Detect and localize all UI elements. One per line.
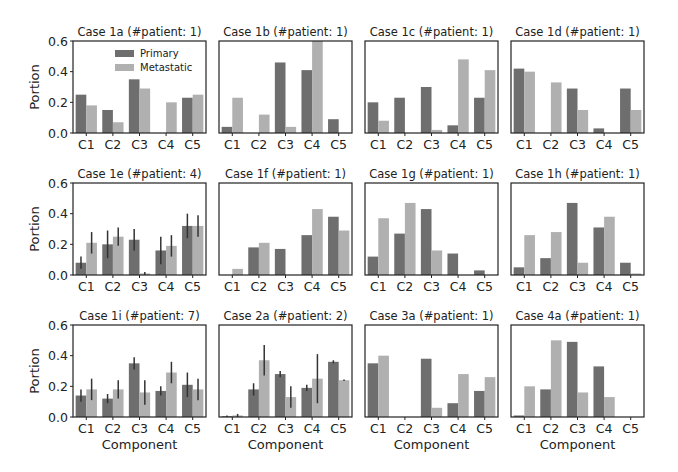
primary-bar xyxy=(76,95,87,133)
metastatic-bar xyxy=(259,243,270,275)
x-tick-label: C1 xyxy=(516,279,533,294)
primary-bar xyxy=(593,366,604,417)
x-tick-label: C1 xyxy=(370,421,387,436)
primary-bar xyxy=(474,391,485,417)
metastatic-bar xyxy=(524,72,535,133)
x-tick-label: C2 xyxy=(105,137,122,152)
x-tick-label: C5 xyxy=(476,279,493,294)
x-tick-label: C2 xyxy=(105,421,122,436)
x-tick-label: C2 xyxy=(251,137,268,152)
primary-bar xyxy=(567,203,578,275)
primary-bar xyxy=(394,98,405,133)
subplot-1g: Case 1g (#patient: 1)C1C2C3C4C5 xyxy=(365,167,498,294)
legend-swatch xyxy=(115,50,134,57)
metastatic-bar xyxy=(458,374,469,417)
metastatic-bar xyxy=(458,59,469,133)
x-tick-label: C2 xyxy=(397,137,414,152)
metastatic-bar xyxy=(405,203,416,275)
metastatic-bar xyxy=(193,95,204,133)
x-tick-label: C2 xyxy=(397,421,414,436)
primary-bar xyxy=(421,87,432,133)
x-tick-label: C4 xyxy=(158,137,175,152)
y-axis-label: Portion xyxy=(27,64,42,110)
x-tick-label: C5 xyxy=(184,279,201,294)
metastatic-bar xyxy=(578,392,589,417)
metastatic-bar xyxy=(232,269,243,275)
primary-bar xyxy=(275,249,286,275)
primary-bar xyxy=(328,362,339,417)
metastatic-bar xyxy=(551,82,562,133)
metastatic-bar xyxy=(312,209,323,275)
x-tick-label: C3 xyxy=(131,137,148,152)
primary-bar xyxy=(328,217,339,275)
subplot-title: Case 2a (#patient: 2) xyxy=(223,309,347,323)
x-tick-label: C4 xyxy=(304,137,321,152)
primary-bar xyxy=(447,403,458,417)
x-tick-label: C5 xyxy=(184,421,201,436)
primary-bar xyxy=(248,247,259,275)
primary-bar xyxy=(514,267,525,275)
x-tick-label: C3 xyxy=(569,279,586,294)
x-tick-label: C4 xyxy=(304,279,321,294)
metastatic-bar xyxy=(378,356,389,417)
primary-bar xyxy=(222,127,233,133)
metastatic-bar xyxy=(578,263,589,275)
x-tick-label: C1 xyxy=(516,137,533,152)
subplot-2a: Case 2a (#patient: 2)C1C2C3C4C5Component xyxy=(219,309,352,452)
subplot-title: Case 1g (#patient: 1) xyxy=(369,167,493,181)
primary-bar xyxy=(301,388,312,417)
legend-label: Primary xyxy=(140,48,179,59)
y-tick-label: 0.2 xyxy=(48,95,68,110)
figure: Case 1a (#patient: 1)C1C2C3C4C50.00.20.4… xyxy=(0,0,678,472)
y-axis-label: Portion xyxy=(27,206,42,252)
metastatic-bar xyxy=(113,122,124,133)
y-tick-label: 0.2 xyxy=(48,237,68,252)
x-tick-label: C1 xyxy=(78,421,95,436)
y-tick-label: 0.6 xyxy=(48,176,68,191)
metastatic-bar xyxy=(232,98,243,133)
x-tick-label: C5 xyxy=(330,137,347,152)
x-tick-label: C2 xyxy=(543,279,560,294)
subplot-title: Case 1i (#patient: 7) xyxy=(79,309,199,323)
x-axis-label: Component xyxy=(102,437,177,452)
primary-bar xyxy=(275,374,286,417)
metastatic-bar xyxy=(312,41,323,133)
metastatic-bar xyxy=(604,217,615,275)
metastatic-bar xyxy=(432,250,443,275)
subplot-1d: Case 1d (#patient: 1)C1C2C3C4C5 xyxy=(511,25,644,152)
primary-bar xyxy=(540,258,551,275)
primary-bar xyxy=(474,270,485,275)
primary-bar xyxy=(421,359,432,417)
primary-bar xyxy=(593,128,604,133)
primary-bar xyxy=(129,79,140,133)
metastatic-bar xyxy=(166,102,177,133)
x-tick-label: C2 xyxy=(251,421,268,436)
metastatic-bar xyxy=(551,232,562,275)
subplot-1i: Case 1i (#patient: 7)C1C2C3C4C50.00.20.4… xyxy=(27,309,206,452)
metastatic-bar xyxy=(140,89,151,133)
subplot-title: Case 1d (#patient: 1) xyxy=(515,25,639,39)
subplot-title: Case 1b (#patient: 1) xyxy=(223,25,347,39)
x-tick-label: C4 xyxy=(158,279,175,294)
subplot-title: Case 1f (#patient: 1) xyxy=(225,167,346,181)
metastatic-bar xyxy=(86,105,97,133)
x-axis-label: Component xyxy=(394,437,469,452)
y-axis-label: Portion xyxy=(27,348,42,394)
x-tick-label: C3 xyxy=(423,137,440,152)
metastatic-bar xyxy=(339,380,350,417)
metastatic-bar xyxy=(524,235,535,275)
legend: PrimaryMetastatic xyxy=(115,48,192,73)
x-tick-label: C3 xyxy=(423,279,440,294)
subplot-1a: Case 1a (#patient: 1)C1C2C3C4C50.00.20.4… xyxy=(27,25,206,152)
primary-bar xyxy=(301,235,312,275)
subplot-1e: Case 1e (#patient: 4)C1C2C3C4C50.00.20.4… xyxy=(27,167,206,294)
primary-bar xyxy=(102,110,113,133)
primary-bar xyxy=(129,363,140,417)
x-tick-label: C2 xyxy=(251,279,268,294)
x-tick-label: C1 xyxy=(224,137,241,152)
subplot-3a: Case 3a (#patient: 1)C1C2C3C4C5Component xyxy=(365,309,498,452)
y-tick-label: 0.4 xyxy=(48,64,68,79)
x-tick-label: C3 xyxy=(569,421,586,436)
y-tick-label: 0.0 xyxy=(48,268,68,283)
metastatic-bar xyxy=(378,121,389,133)
